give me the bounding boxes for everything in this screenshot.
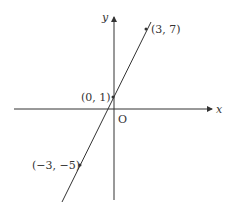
graph-line: [62, 22, 151, 202]
point-0-1: [112, 96, 115, 99]
y-axis-label: y: [101, 11, 109, 24]
point-3-7: [145, 28, 148, 31]
point-0-1-label: (0, 1): [81, 91, 111, 104]
coordinate-diagram: x y O (3, 7) (0, 1) (−3, −5): [0, 0, 233, 213]
origin-label: O: [118, 113, 127, 126]
point-3-7-label: (3, 7): [151, 23, 181, 36]
point-neg3-neg5-label: (−3, −5): [32, 159, 80, 172]
x-axis-label: x: [216, 103, 223, 116]
